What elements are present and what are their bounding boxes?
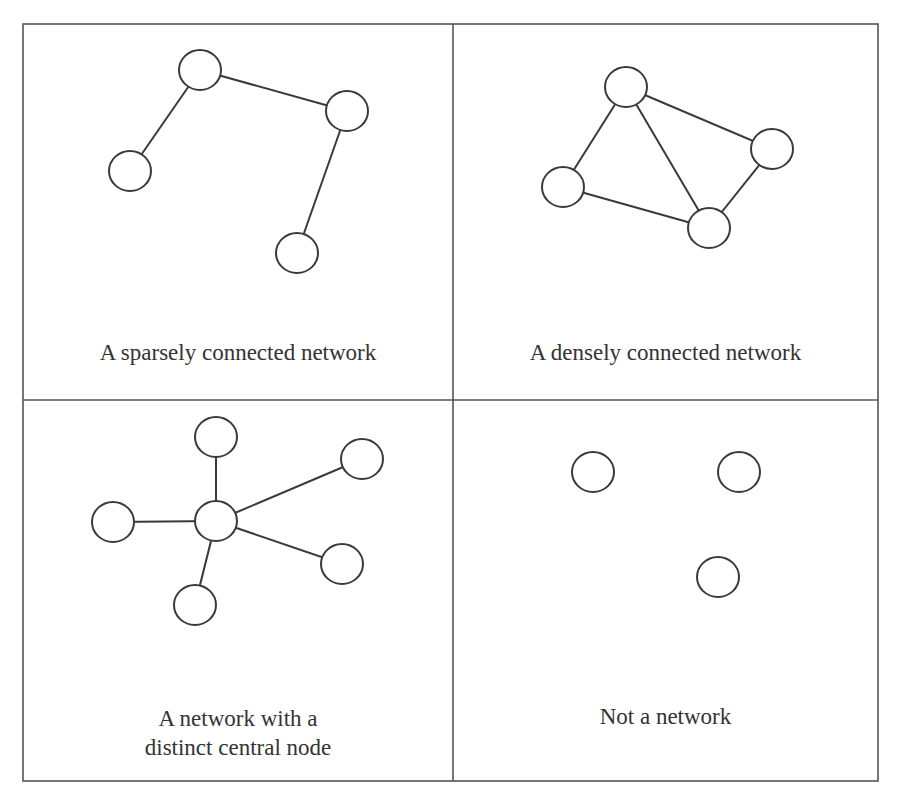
network-node — [605, 67, 647, 107]
network-node — [697, 557, 739, 597]
network-node — [688, 208, 730, 248]
network-node — [109, 151, 151, 191]
caption-dense-network: A densely connected network — [453, 338, 878, 367]
network-node — [321, 544, 363, 584]
network-node — [341, 439, 383, 479]
panel-not-a-network — [572, 452, 760, 597]
network-node — [718, 452, 760, 492]
network-edge — [626, 87, 709, 228]
network-edge — [626, 87, 772, 149]
network-node — [572, 452, 614, 492]
caption-sparse-network: A sparsely connected network — [23, 338, 453, 367]
caption-central-node-network: A network with a distinct central node — [23, 704, 453, 762]
panel-central-node-network — [92, 417, 383, 625]
grid-frame — [23, 24, 878, 781]
network-edge — [297, 111, 347, 253]
network-node — [326, 91, 368, 131]
network-edge — [563, 187, 709, 228]
panel-sparse-network — [109, 50, 368, 273]
network-node — [276, 233, 318, 273]
outer-border — [23, 24, 878, 781]
network-node — [174, 585, 216, 625]
network-node — [92, 502, 134, 542]
network-node — [179, 50, 221, 90]
network-node — [195, 417, 237, 457]
network-edge — [216, 459, 362, 521]
caption-not-a-network: Not a network — [453, 702, 878, 731]
network-node — [542, 167, 584, 207]
network-node — [751, 129, 793, 169]
central-node — [195, 501, 237, 541]
network-types-diagram — [0, 0, 899, 803]
panel-dense-network — [542, 67, 793, 248]
network-edge — [200, 70, 347, 111]
